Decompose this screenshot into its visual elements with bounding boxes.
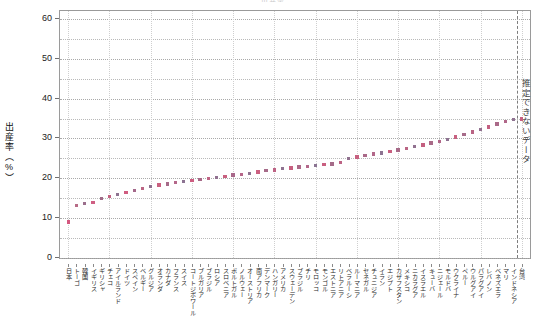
x-tick-mark — [349, 264, 350, 267]
x-tick-label: 台湾 — [519, 268, 525, 280]
x-tick-label: 韓国 — [82, 268, 88, 280]
data-point — [207, 177, 210, 180]
x-tick-mark — [184, 264, 185, 267]
x-tick-mark — [472, 264, 473, 267]
data-point — [487, 125, 490, 128]
data-point — [388, 150, 391, 153]
x-tick-label: コートジボワール — [189, 268, 195, 316]
x-tick-label: ベラルーシ — [345, 268, 351, 298]
data-point — [347, 157, 350, 160]
x-tick-mark — [291, 264, 292, 267]
x-tick-mark — [415, 264, 416, 267]
data-point — [396, 148, 399, 151]
chart-root: 出産率 出産率（%） 0102030405060 推定できないデータ 日本トーゴ… — [0, 0, 546, 332]
y-tick-label: 50 — [28, 53, 52, 63]
x-tick-mark — [142, 264, 143, 267]
x-tick-mark — [68, 264, 69, 267]
x-tick-mark — [464, 264, 465, 267]
data-point — [446, 138, 449, 141]
data-point — [438, 140, 441, 143]
data-point — [281, 167, 284, 170]
x-tick-mark — [332, 264, 333, 267]
data-point — [91, 201, 94, 204]
data-point — [108, 195, 111, 198]
x-tick-label: スウェーデン — [288, 268, 294, 304]
x-tick-label: ブラジル — [205, 268, 211, 292]
data-point — [273, 168, 276, 171]
x-tick-mark — [382, 264, 383, 267]
data-point — [479, 128, 482, 131]
x-tick-label: オランダ — [156, 268, 162, 292]
x-tick-label: フランス — [172, 268, 178, 292]
x-tick-mark — [439, 264, 440, 267]
y-tick-label: 10 — [28, 212, 52, 222]
x-tick-mark — [225, 264, 226, 267]
data-point — [248, 172, 251, 175]
x-tick-mark — [324, 264, 325, 267]
x-tick-label: デンマーク — [263, 268, 269, 298]
data-point — [462, 133, 465, 136]
data-point — [495, 122, 498, 125]
x-tick-label: ベネズエラ — [494, 268, 500, 298]
x-tick-label: グルジア — [148, 268, 154, 292]
data-point — [429, 141, 432, 144]
data-point — [355, 155, 358, 158]
x-tick-mark — [159, 264, 160, 267]
data-point — [166, 182, 169, 185]
y-tick-label: 20 — [28, 172, 52, 182]
data-point — [141, 187, 144, 190]
x-tick-mark — [258, 264, 259, 267]
x-tick-label: ブルガリア — [197, 268, 203, 298]
x-tick-mark — [250, 264, 251, 267]
x-tick-mark — [522, 264, 523, 267]
x-tick-label: リトアニア — [337, 268, 343, 298]
x-tick-mark — [390, 264, 391, 267]
x-tick-mark — [283, 264, 284, 267]
x-axis-labels: 日本トーゴ韓国イギリスギリシャチェコアイルランドドイツスペインベルギーグルジアオ… — [59, 264, 531, 330]
x-tick-label: マリ — [502, 268, 508, 280]
x-tick-mark — [307, 264, 308, 267]
data-point — [421, 143, 424, 146]
x-tick-label: カザフスタン — [395, 268, 401, 304]
x-tick-label: イスラエル — [420, 268, 426, 298]
data-point — [240, 173, 243, 176]
x-tick-mark — [175, 264, 176, 267]
data-point — [306, 165, 309, 168]
x-tick-label: インドネシア — [510, 268, 516, 304]
x-tick-label: アイルランド — [115, 268, 121, 304]
data-point — [520, 117, 523, 120]
x-tick-label: アメリカ — [279, 268, 285, 292]
plot-area: 推定できないデータ — [59, 10, 531, 259]
data-point — [413, 145, 416, 148]
y-tick-label: 40 — [28, 93, 52, 103]
x-tick-mark — [448, 264, 449, 267]
data-point — [149, 185, 152, 188]
data-point — [322, 163, 325, 166]
y-tick-label: 60 — [28, 13, 52, 23]
x-tick-mark — [489, 264, 490, 267]
x-tick-label: エジプト — [387, 268, 393, 292]
x-tick-mark — [85, 264, 86, 267]
y-tick-label: 30 — [28, 132, 52, 142]
x-tick-mark — [151, 264, 152, 267]
x-tick-label: ギリシャ — [98, 268, 104, 292]
data-point — [504, 120, 507, 123]
x-tick-label: ニジェール — [436, 268, 442, 298]
data-point — [124, 191, 127, 194]
x-tick-label: ベルギー — [139, 268, 145, 292]
x-tick-mark — [217, 264, 218, 267]
data-point — [231, 173, 234, 176]
x-tick-mark — [373, 264, 374, 267]
x-tick-mark — [101, 264, 102, 267]
x-tick-mark — [134, 264, 135, 267]
x-tick-label: ニカラグア — [411, 268, 417, 298]
x-tick-label: ブラジル — [296, 268, 302, 292]
data-point — [190, 179, 193, 182]
x-tick-mark — [423, 264, 424, 267]
data-point — [512, 118, 515, 121]
x-tick-mark — [497, 264, 498, 267]
x-tick-label: ノルウェー — [238, 268, 244, 298]
x-tick-label: イラン — [378, 268, 384, 286]
x-tick-label: キューバ — [428, 268, 434, 292]
x-tick-label: トーゴ — [73, 268, 79, 286]
